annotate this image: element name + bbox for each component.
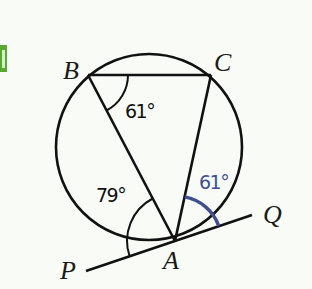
point-label-a: A xyxy=(161,246,179,275)
point-label-q: Q xyxy=(263,200,282,229)
segment-ca xyxy=(175,75,211,241)
geometry-diagram: B C A P Q 61° 79° 61° xyxy=(0,0,312,289)
angle-arc-a-left xyxy=(127,199,153,257)
point-label-c: C xyxy=(214,48,232,77)
point-label-b: B xyxy=(63,56,79,85)
angle-label-a-left: 79° xyxy=(96,184,125,206)
angle-label-b: 61° xyxy=(125,100,154,122)
angle-label-a-right: 61° xyxy=(199,171,228,193)
circle xyxy=(56,54,242,240)
question-marker xyxy=(0,45,7,72)
angle-arc-a-right xyxy=(185,197,219,226)
point-label-p: P xyxy=(59,256,76,285)
